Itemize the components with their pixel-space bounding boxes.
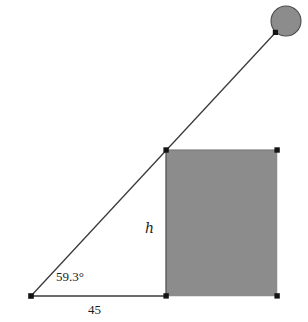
- vertex-dot-angle: [28, 293, 34, 299]
- angle-label: 59.3°: [56, 270, 84, 283]
- diagram-canvas: 59.3° 45 h: [0, 0, 308, 322]
- geometry-figure: [0, 0, 308, 322]
- vertex-dot-rect-bottom-left: [163, 293, 168, 298]
- shaded-rectangle: [166, 150, 277, 296]
- vertex-dot-rect-bottom-right: [274, 293, 279, 298]
- vertex-dot-rect-top-left: [163, 147, 168, 152]
- height-label: h: [145, 221, 154, 235]
- vertex-dot-ball-attach: [273, 30, 278, 35]
- base-length-label: 45: [88, 303, 101, 316]
- vertex-dot-rect-top-right: [274, 147, 279, 152]
